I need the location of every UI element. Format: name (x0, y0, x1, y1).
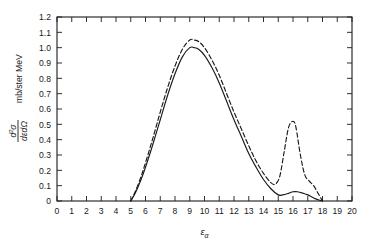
x-tick-label: 14 (259, 206, 269, 216)
x-tick-label: 15 (273, 206, 283, 216)
y-axis-label: d2σdεdΩmb/ster MeV (8, 54, 30, 142)
x-tick-label: 9 (187, 206, 192, 216)
plot-frame (57, 17, 352, 201)
y-tick-label: 0.8 (39, 74, 51, 84)
y-tick-label: 1.2 (39, 12, 51, 22)
y-tick-label: 0.5 (39, 120, 51, 130)
x-tick-label: 19 (332, 206, 342, 216)
line-chart: 0123456789101112131415161718192000.10.20… (0, 0, 390, 248)
series-solid-curve (131, 47, 323, 201)
y-tick-label: 0.1 (39, 181, 51, 191)
x-tick-label: 3 (99, 206, 104, 216)
y-tick-label: 0.9 (39, 58, 51, 68)
x-tick-label: 5 (128, 206, 133, 216)
x-tick-label: 10 (200, 206, 210, 216)
x-tick-label: 11 (215, 206, 224, 216)
y-tick-label: 0.4 (39, 135, 51, 145)
y-axis-label-numerator: d2σ (8, 124, 18, 138)
y-tick-label: 0.3 (39, 150, 51, 160)
x-axis-label-subscript: α (205, 232, 210, 239)
x-tick-label: 18 (318, 206, 328, 216)
x-tick-label: 13 (244, 206, 254, 216)
y-axis-label-denominator: dεdΩ (19, 121, 29, 141)
x-tick-label: 16 (288, 206, 298, 216)
y-tick-label: 0.2 (39, 166, 51, 176)
x-tick-label: 6 (143, 206, 148, 216)
x-tick-label: 1 (69, 206, 74, 216)
series-dashed-curve (131, 39, 323, 201)
x-tick-label: 0 (55, 206, 60, 216)
x-tick-label: 12 (229, 206, 239, 216)
y-tick-label: 1.1 (39, 28, 51, 38)
x-tick-label: 8 (173, 206, 178, 216)
x-tick-label: 4 (114, 206, 119, 216)
chart-figure: 0123456789101112131415161718192000.10.20… (0, 0, 390, 248)
y-tick-label: 1.0 (39, 43, 51, 53)
y-tick-label: 0.6 (39, 104, 51, 114)
x-tick-label: 7 (158, 206, 163, 216)
y-tick-label: 0 (46, 196, 51, 206)
y-tick-label: 0.7 (39, 89, 51, 99)
x-tick-label: 20 (347, 206, 357, 216)
y-axis-label-units: mb/ster MeV (14, 54, 24, 103)
x-tick-label: 17 (303, 206, 313, 216)
x-tick-label: 2 (84, 206, 89, 216)
x-axis-label: εα (200, 226, 209, 239)
